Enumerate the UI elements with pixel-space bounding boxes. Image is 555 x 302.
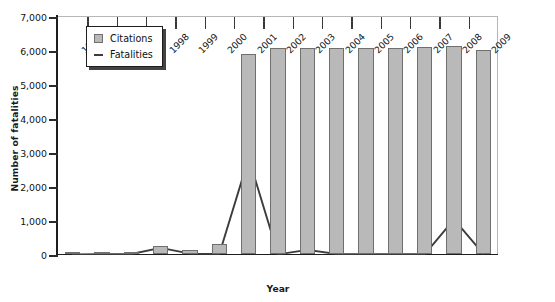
x-tick-mark	[381, 17, 382, 29]
y-tick-mark	[49, 17, 58, 19]
x-tick-mark	[410, 17, 411, 29]
legend-label-fatalities: Fatalities	[110, 50, 153, 60]
x-tick-mark	[293, 17, 294, 29]
bar	[182, 250, 197, 254]
bar	[270, 48, 285, 254]
y-tick-mark	[49, 221, 58, 223]
x-tick-mark	[439, 17, 440, 29]
bar	[417, 47, 432, 254]
x-tick-mark	[175, 17, 176, 29]
x-tick-mark	[351, 17, 352, 29]
legend-label-citations: Citations	[110, 34, 152, 44]
bar	[241, 54, 256, 254]
y-tick-mark	[49, 255, 58, 257]
bar	[153, 246, 168, 255]
y-tick-label: 0	[41, 250, 47, 261]
legend-item-citations[interactable]: Citations	[94, 32, 153, 45]
y-tick-label: 2,000	[20, 182, 47, 193]
bar	[358, 48, 373, 254]
bar	[446, 46, 461, 254]
x-tick-mark	[469, 17, 470, 29]
x-tick-mark	[263, 17, 264, 29]
bar	[329, 48, 344, 254]
y-tick-label: 7,000	[20, 12, 47, 23]
y-tick-mark	[49, 153, 58, 155]
chart-figure: Number of fatalities 01,0002,0003,0004,0…	[0, 0, 555, 302]
y-tick-label: 1,000	[20, 216, 47, 227]
y-tick-label: 4,000	[20, 114, 47, 125]
bar	[388, 48, 403, 254]
bar	[124, 252, 139, 254]
y-tick-mark	[49, 51, 58, 53]
bar	[212, 244, 227, 254]
x-tick-mark	[322, 17, 323, 29]
bar	[94, 252, 109, 254]
y-tick-mark	[49, 187, 58, 189]
y-tick-mark	[49, 119, 58, 121]
bar	[300, 48, 315, 254]
y-tick-label: 6,000	[20, 46, 47, 57]
y-tick-label: 3,000	[20, 148, 47, 159]
bar-swatch-icon	[94, 34, 103, 43]
x-tick-mark	[234, 17, 235, 29]
y-tick-mark	[49, 85, 58, 87]
legend-item-fatalities[interactable]: Fatalities	[94, 48, 153, 61]
y-tick-label: 5,000	[20, 80, 47, 91]
bar	[476, 50, 491, 254]
bar	[65, 252, 80, 254]
y-axis-title: Number of fatalities	[9, 74, 20, 204]
x-tick-mark	[205, 17, 206, 29]
line-swatch-icon	[94, 54, 103, 56]
chart-legend: Citations Fatalities	[86, 26, 163, 67]
x-axis-title: Year	[58, 283, 498, 294]
